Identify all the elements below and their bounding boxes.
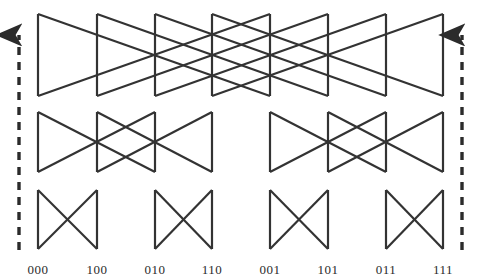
stage-1-edges [38,14,443,96]
node-label-101: 101 [318,262,339,278]
node-label-000: 000 [28,262,49,278]
stage-3-edges [38,190,443,249]
node-label-111: 111 [433,262,453,278]
butterfly-network-canvas [0,0,483,279]
node-label-010: 010 [145,262,166,278]
stage-2-edges [38,112,443,172]
node-label-001: 001 [260,262,281,278]
node-label-100: 100 [87,262,108,278]
node-label-110: 110 [202,262,223,278]
butterfly-network-figure: 000100010110001101011111 [0,0,483,279]
flow-arrows [19,35,462,250]
node-label-011: 011 [376,262,397,278]
